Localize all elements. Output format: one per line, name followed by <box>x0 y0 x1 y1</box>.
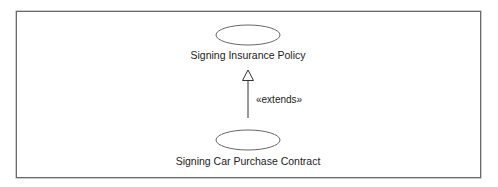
use-case-insurance-label: Signing Insurance Policy <box>191 49 306 61</box>
extends-stereotype-label: «extends» <box>256 94 302 105</box>
generalization-arrowhead-icon <box>243 70 254 81</box>
use-case-insurance-ellipse[interactable] <box>216 25 280 45</box>
use-case-car-label: Signing Car Purchase Contract <box>176 155 321 167</box>
use-case-car-ellipse[interactable] <box>216 130 280 150</box>
